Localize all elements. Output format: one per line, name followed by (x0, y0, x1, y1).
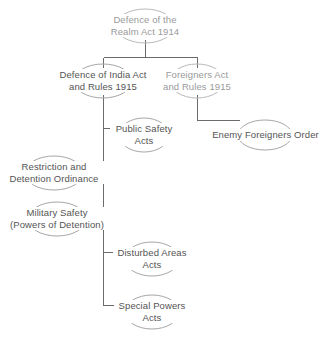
node-foreigners-act-line-1: Foreigners Act (159, 69, 235, 81)
node-military-safety-line-1: Military Safety (4, 207, 110, 219)
node-military-safety-line-2: (Powers of Detention) (4, 219, 110, 231)
node-foreigners-act[interactable]: Foreigners Act and Rules 1915 (157, 69, 237, 92)
node-restriction-and-detention-ordinance-line-1: Restriction and (5, 161, 103, 173)
node-special-powers-acts-line-2: Acts (116, 312, 188, 324)
node-disturbed-areas-acts[interactable]: Disturbed Areas Acts (113, 247, 191, 270)
node-enemy-foreigners-order[interactable]: Enemy Foreigners Order (208, 129, 323, 141)
node-root-line-2: Realm Act 1914 (107, 26, 183, 38)
node-enemy-foreigners-order-line-1: Enemy Foreigners Order (210, 129, 321, 141)
node-defence-of-india-act[interactable]: Defence of India Act and Rules 1915 (51, 69, 155, 92)
node-restriction-and-detention-ordinance-line-2: Detention Ordinance (5, 173, 103, 185)
node-defence-of-india-act-line-2: and Rules 1915 (53, 81, 153, 93)
node-special-powers-acts[interactable]: Special Powers Acts (114, 300, 190, 323)
node-public-safety-acts[interactable]: Public Safety Acts (110, 123, 178, 146)
node-root[interactable]: Defence of the Realm Act 1914 (105, 14, 185, 37)
node-root-line-1: Defence of the (107, 14, 183, 26)
node-special-powers-acts-line-1: Special Powers (116, 300, 188, 312)
node-foreigners-act-line-2: and Rules 1915 (159, 81, 235, 93)
node-military-safety[interactable]: Military Safety (Powers of Detention) (2, 207, 112, 230)
node-public-safety-acts-line-2: Acts (112, 135, 176, 147)
node-disturbed-areas-acts-line-2: Acts (115, 259, 189, 271)
node-defence-of-india-act-line-1: Defence of India Act (53, 69, 153, 81)
node-restriction-and-detention-ordinance[interactable]: Restriction and Detention Ordinance (3, 161, 105, 184)
node-public-safety-acts-line-1: Public Safety (112, 123, 176, 135)
node-disturbed-areas-acts-line-1: Disturbed Areas (115, 247, 189, 259)
diagram-canvas: Defence of the Realm Act 1914 Defence of… (0, 0, 327, 344)
